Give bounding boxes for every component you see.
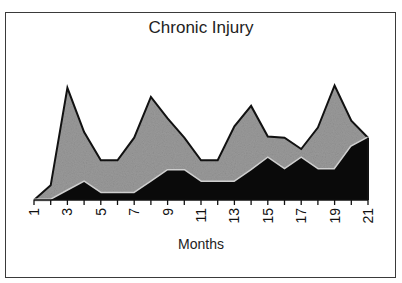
x-tick-label: 11 — [193, 208, 209, 223]
x-tick-label: 17 — [293, 208, 309, 224]
x-tick-label: 15 — [260, 208, 276, 224]
x-tick-label: 19 — [327, 208, 343, 224]
x-tick-label: 21 — [360, 208, 376, 224]
x-tick-label: 9 — [160, 208, 176, 216]
x-tick-label: 7 — [126, 208, 142, 216]
x-axis-label: Months — [0, 236, 402, 252]
x-tick-label: 5 — [93, 208, 109, 216]
x-tick-label: 3 — [59, 208, 75, 216]
x-tick-label: 1 — [26, 208, 42, 216]
x-tick-label: 13 — [226, 208, 242, 224]
